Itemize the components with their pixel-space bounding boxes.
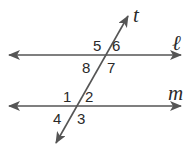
angle-6: 6	[112, 37, 120, 54]
transversal-t	[56, 16, 128, 143]
angle-5: 5	[93, 37, 101, 54]
label-l: ℓ	[172, 31, 181, 55]
geometry-diagram: t ℓ m 5 6 8 7 1 2 4 3	[0, 0, 188, 147]
label-t: t	[133, 3, 140, 27]
angle-1: 1	[63, 88, 71, 105]
label-m: m	[168, 81, 183, 105]
angle-8: 8	[82, 59, 90, 76]
angle-7: 7	[107, 59, 115, 76]
angle-2: 2	[85, 88, 93, 105]
angle-4: 4	[53, 110, 61, 127]
angle-3: 3	[77, 110, 85, 127]
